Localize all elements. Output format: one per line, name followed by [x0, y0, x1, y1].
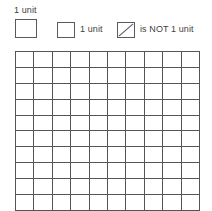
grid-cell[interactable]	[16, 52, 34, 68]
grid-cell[interactable]	[126, 131, 144, 147]
grid-cell[interactable]	[163, 147, 181, 163]
grid-cell[interactable]	[16, 99, 34, 115]
grid-cell[interactable]	[16, 195, 34, 211]
grid-cell[interactable]	[89, 99, 107, 115]
grid-cell[interactable]	[107, 195, 125, 211]
grid-cell[interactable]	[52, 195, 70, 211]
grid-cell[interactable]	[71, 99, 89, 115]
grid-cell[interactable]	[163, 83, 181, 99]
grid-cell[interactable]	[52, 179, 70, 195]
grid-cell[interactable]	[163, 115, 181, 131]
grid-cell[interactable]	[34, 195, 52, 211]
grid-cell[interactable]	[163, 195, 181, 211]
grid-cell[interactable]	[126, 52, 144, 68]
grid-cell[interactable]	[163, 179, 181, 195]
grid-cell[interactable]	[89, 67, 107, 83]
grid-cell[interactable]	[16, 163, 34, 179]
grid-cell[interactable]	[107, 131, 125, 147]
grid-cell[interactable]	[181, 83, 199, 99]
grid-cell[interactable]	[144, 83, 162, 99]
grid-cell[interactable]	[144, 179, 162, 195]
grid-cell[interactable]	[16, 83, 34, 99]
grid-cell[interactable]	[71, 131, 89, 147]
grid-cell[interactable]	[34, 131, 52, 147]
grid-cell[interactable]	[34, 163, 52, 179]
grid-cell[interactable]	[89, 163, 107, 179]
grid-cell[interactable]	[126, 99, 144, 115]
grid-cell[interactable]	[89, 195, 107, 211]
grid-cell[interactable]	[16, 67, 34, 83]
grid-cell[interactable]	[71, 83, 89, 99]
grid-cell[interactable]	[16, 131, 34, 147]
grid-cell[interactable]	[52, 163, 70, 179]
grid-cell[interactable]	[144, 147, 162, 163]
grid-cell[interactable]	[34, 99, 52, 115]
grid-cell[interactable]	[144, 131, 162, 147]
grid-cell[interactable]	[107, 67, 125, 83]
grid-cell[interactable]	[181, 131, 199, 147]
grid-cell[interactable]	[107, 52, 125, 68]
grid-cell[interactable]	[89, 115, 107, 131]
grid-cell[interactable]	[181, 195, 199, 211]
grid-cell[interactable]	[107, 83, 125, 99]
grid-cell[interactable]	[163, 52, 181, 68]
grid-cell[interactable]	[107, 115, 125, 131]
grid-cell[interactable]	[52, 115, 70, 131]
grid-cell[interactable]	[181, 99, 199, 115]
grid-cell[interactable]	[89, 52, 107, 68]
grid-cell[interactable]	[126, 147, 144, 163]
grid-cell[interactable]	[16, 147, 34, 163]
grid-cell[interactable]	[34, 115, 52, 131]
grid-cell[interactable]	[89, 131, 107, 147]
grid-cell[interactable]	[71, 179, 89, 195]
grid-cell[interactable]	[181, 179, 199, 195]
grid-cell[interactable]	[144, 67, 162, 83]
grid-cell[interactable]	[107, 179, 125, 195]
grid-cell[interactable]	[34, 83, 52, 99]
grid-cell[interactable]	[126, 67, 144, 83]
grid-cell[interactable]	[89, 179, 107, 195]
grid-cell[interactable]	[71, 115, 89, 131]
grid-cell[interactable]	[144, 115, 162, 131]
grid-cell[interactable]	[126, 83, 144, 99]
grid-cell[interactable]	[52, 131, 70, 147]
grid-cell[interactable]	[144, 163, 162, 179]
grid-cell[interactable]	[107, 99, 125, 115]
grid-cell[interactable]	[126, 163, 144, 179]
grid-cell[interactable]	[181, 67, 199, 83]
grid-cell[interactable]	[163, 99, 181, 115]
grid-cell[interactable]	[89, 83, 107, 99]
grid-cell[interactable]	[144, 99, 162, 115]
grid-cell[interactable]	[181, 52, 199, 68]
grid-cell[interactable]	[52, 67, 70, 83]
grid-cell[interactable]	[107, 163, 125, 179]
grid-cell[interactable]	[107, 147, 125, 163]
grid-cell[interactable]	[163, 163, 181, 179]
grid-cell[interactable]	[34, 147, 52, 163]
grid-cell[interactable]	[71, 147, 89, 163]
grid-cell[interactable]	[144, 195, 162, 211]
grid-cell[interactable]	[126, 115, 144, 131]
grid-cell[interactable]	[89, 147, 107, 163]
grid-cell[interactable]	[16, 179, 34, 195]
grid-cell[interactable]	[181, 163, 199, 179]
grid-cell[interactable]	[181, 147, 199, 163]
grid-cell[interactable]	[34, 52, 52, 68]
grid-cell[interactable]	[52, 147, 70, 163]
grid-cell[interactable]	[71, 52, 89, 68]
grid-cell[interactable]	[52, 99, 70, 115]
grid-cell[interactable]	[34, 67, 52, 83]
grid-cell[interactable]	[71, 163, 89, 179]
grid-cell[interactable]	[16, 115, 34, 131]
grid-cell[interactable]	[163, 131, 181, 147]
grid-cell[interactable]	[163, 67, 181, 83]
grid-cell[interactable]	[71, 67, 89, 83]
grid-cell[interactable]	[126, 195, 144, 211]
grid-cell[interactable]	[181, 115, 199, 131]
grid-cell[interactable]	[52, 83, 70, 99]
grid-cell[interactable]	[34, 179, 52, 195]
grid-cell[interactable]	[126, 179, 144, 195]
grid-cell[interactable]	[71, 195, 89, 211]
grid-cell[interactable]	[144, 52, 162, 68]
grid-cell[interactable]	[52, 52, 70, 68]
